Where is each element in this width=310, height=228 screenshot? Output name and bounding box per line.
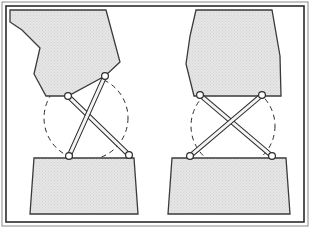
upper-body-upright: [186, 10, 281, 96]
joint-lower-left: [66, 153, 73, 160]
joint-upper-right: [102, 73, 109, 80]
joint-upper-left: [65, 93, 72, 100]
joint-upper-left: [197, 92, 204, 99]
joint-lower-right: [269, 153, 276, 160]
base-block-right: [168, 158, 290, 214]
base-block-left: [30, 158, 138, 214]
figure-root: Scissor linkage mechanism in two configu…: [0, 0, 310, 228]
mechanism-diagram: [0, 0, 310, 228]
joint-lower-left: [187, 153, 194, 160]
joint-upper-right: [259, 92, 266, 99]
joint-lower-right: [126, 152, 133, 159]
